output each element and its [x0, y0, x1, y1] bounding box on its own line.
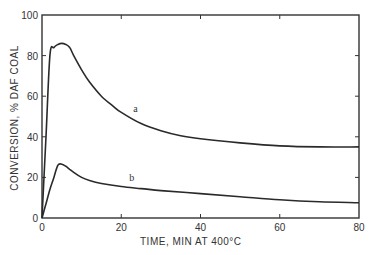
curve-a — [42, 43, 359, 218]
y-tick-label: 100 — [21, 10, 38, 21]
x-tick-label: 60 — [274, 222, 286, 233]
y-tick-label: 40 — [27, 132, 39, 143]
y-axis-ticks: 020406080100 — [21, 10, 359, 224]
plot-area: 020406080 020406080100 a b — [21, 10, 365, 233]
y-tick-label: 80 — [27, 51, 39, 62]
x-tick-label: 20 — [116, 222, 128, 233]
x-tick-label: 80 — [353, 222, 365, 233]
curve-a-label: a — [133, 103, 138, 114]
y-tick-label: 0 — [32, 213, 38, 224]
y-tick-label: 20 — [27, 172, 39, 183]
x-axis-ticks: 020406080 — [39, 15, 365, 233]
curve-b — [42, 164, 359, 218]
x-axis-title: TIME, MIN AT 400°C — [140, 236, 242, 247]
x-tick-label: 40 — [195, 222, 207, 233]
conversion-chart: 020406080 020406080100 a b TIME, MIN AT … — [0, 0, 373, 255]
y-tick-label: 60 — [27, 91, 39, 102]
y-axis-title: CONVERSION, % DAF COAL — [9, 45, 20, 190]
x-tick-label: 0 — [39, 222, 45, 233]
plot-frame — [42, 15, 359, 218]
curve-b-label: b — [129, 172, 134, 183]
